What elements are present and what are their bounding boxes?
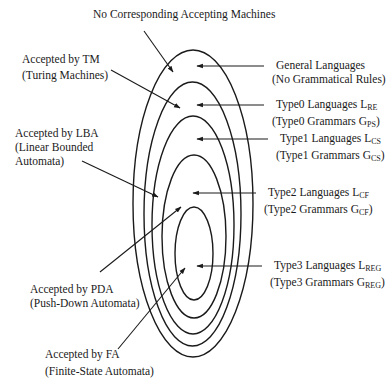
- no-accepting-machines-label: No Corresponding Accepting Machines: [93, 7, 275, 21]
- ellipse-general-languages: [133, 50, 253, 357]
- ellipse-type1-languages: [152, 116, 234, 334]
- tm-label-line2: (Turing Machines): [22, 68, 108, 82]
- type2-grammars: (Type2 Grammars GCF): [264, 202, 373, 216]
- ellipse-type2-languages: [162, 155, 226, 318]
- general-languages-line1: General Languages: [272, 58, 386, 72]
- lba-label-line1: Accepted by LBA: [15, 126, 99, 140]
- ellipse-type3-languages: [175, 207, 213, 300]
- type1-grammars: (Type1 Grammars GCS): [276, 148, 385, 162]
- lba-label-line3: Automata): [15, 154, 99, 168]
- tm-label: Accepted by TM (Turing Machines): [22, 52, 108, 82]
- type1-label: Type1 Languages LCS (Type1 Grammars GCS): [276, 131, 385, 162]
- lba-label-line2: (Linear Bounded: [15, 140, 99, 154]
- type0-grammars: (Type0 Grammars GPS): [272, 114, 380, 128]
- type2-languages: Type2 Languages LCF: [264, 185, 373, 199]
- nested-language-ellipses: [133, 50, 253, 357]
- lba-label: Accepted by LBA (Linear Bounded Automata…: [15, 126, 99, 168]
- arrow-no-machines-icon: [144, 31, 173, 72]
- pda-label: Accepted by PDA (Push-Down Automata): [30, 282, 140, 310]
- type0-label: Type0 Languages LRE (Type0 Grammars GPS): [272, 97, 380, 128]
- arrow-pda-icon: [100, 207, 181, 272]
- arrow-tm-icon: [111, 70, 180, 108]
- type3-languages: Type3 Languages LREG: [270, 258, 385, 272]
- type1-languages: Type1 Languages LCS: [276, 131, 385, 145]
- fa-label-line1: Accepted by FA: [45, 347, 154, 361]
- ellipse-type0-languages: [144, 82, 241, 346]
- general-languages-line2: (No Grammatical Rules): [272, 72, 386, 86]
- type3-grammars: (Type3 Grammars GREG): [270, 275, 385, 289]
- fa-label: Accepted by FA (Finite-State Automata): [45, 347, 154, 378]
- type3-label: Type3 Languages LREG (Type3 Grammars GRE…: [270, 258, 385, 289]
- type2-label: Type2 Languages LCF (Type2 Grammars GCF): [264, 185, 373, 216]
- tm-label-line1: Accepted by TM: [22, 52, 108, 66]
- pda-label-line2: (Push-Down Automata): [30, 296, 140, 310]
- type0-languages: Type0 Languages LRE: [272, 97, 380, 111]
- fa-label-line2: (Finite-State Automata): [45, 364, 154, 378]
- pda-label-line1: Accepted by PDA: [30, 282, 140, 296]
- general-languages-label: General Languages (No Grammatical Rules): [272, 58, 386, 86]
